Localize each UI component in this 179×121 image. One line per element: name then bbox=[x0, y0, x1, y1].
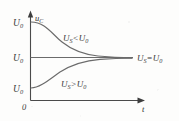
x-axis-label: t bbox=[142, 104, 145, 114]
y-tick-low-sub: 0 bbox=[20, 88, 24, 95]
origin-label: 0 bbox=[22, 102, 27, 112]
y-tick-top-sub: 0 bbox=[20, 22, 24, 29]
annotation-curve-top: US<U0 bbox=[63, 33, 89, 44]
annotation-curve-middle: US=U0 bbox=[137, 53, 163, 64]
y-axis-label-sub: C bbox=[39, 18, 44, 24]
annotation-curve-bottom: US>U0 bbox=[61, 79, 87, 90]
rc-transient-chart: uC t U0 U0 U0 0 US<U0 US=U0 US>U0 bbox=[0, 0, 179, 121]
ann-top-s2: 0 bbox=[85, 37, 89, 44]
y-tick-label-middle: U0 bbox=[13, 53, 24, 64]
y-tick-mid-sub: 0 bbox=[20, 57, 24, 64]
y-tick-label-lower: U0 bbox=[13, 84, 24, 95]
y-axis-label: uC bbox=[35, 13, 44, 24]
y-axis-arrow bbox=[28, 11, 33, 18]
y-tick-label-top: U0 bbox=[13, 18, 24, 29]
ann-mid-s2: 0 bbox=[159, 57, 163, 64]
chart-canvas: uC t U0 U0 U0 0 US<U0 US=U0 US>U0 bbox=[0, 0, 179, 121]
ann-bot-s2: 0 bbox=[83, 83, 87, 90]
x-axis-arrow bbox=[138, 98, 146, 104]
